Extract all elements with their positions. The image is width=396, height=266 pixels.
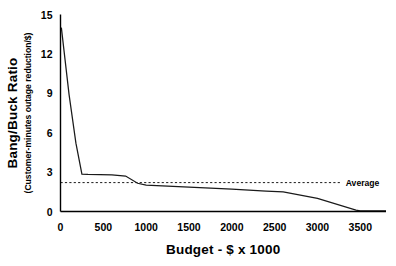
- axes-layer: [61, 15, 387, 212]
- y-axis-subtitle: (Customer-minutes outage reduction/$): [23, 32, 33, 193]
- x-tick-label-3: 1500: [177, 221, 201, 233]
- average-annotation-label: Average: [346, 178, 380, 188]
- x-tick-label-6: 3000: [306, 221, 330, 233]
- x-tick-label-2: 1000: [134, 221, 158, 233]
- x-tick-label-4: 2000: [220, 221, 244, 233]
- x-tick-label-7: 3500: [349, 221, 373, 233]
- y-tick-label-5: 15: [41, 9, 53, 21]
- y-tick-label-0: 0: [47, 206, 53, 218]
- y-tick-label-1: 3: [47, 166, 53, 178]
- y-tick-label-4: 12: [41, 48, 53, 60]
- y-tick-label-2: 6: [47, 127, 53, 139]
- bang-buck-ratio-chart: Average050010001500200025003000350003691…: [0, 0, 396, 266]
- x-axis-title: Budget - $ x 1000: [166, 242, 280, 257]
- y-axis-title: Bang/Buck Ratio: [5, 57, 20, 168]
- data-layer: [61, 28, 387, 211]
- chart-canvas: Average050010001500200025003000350003691…: [0, 0, 396, 266]
- series-line-0: [61, 28, 386, 211]
- x-tick-label-0: 0: [58, 221, 64, 233]
- x-tick-label-5: 2500: [263, 221, 287, 233]
- x-tick-label-1: 500: [95, 221, 113, 233]
- y-tick-label-3: 9: [47, 87, 53, 99]
